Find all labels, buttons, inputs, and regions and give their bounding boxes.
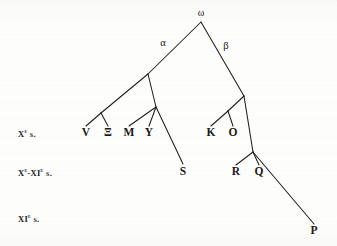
node-label-beta: β [223,41,228,52]
edge-v-xi-to-v [86,113,101,126]
edge-omega-alpha [148,22,201,74]
edge-v-xi-to-xi [101,113,108,126]
edge-omega-beta [201,22,244,96]
edge-m-y-to-s [156,107,183,164]
era-label-era-10c: Xe s. [18,127,36,139]
node-label-Y: Y [145,127,153,139]
node-label-alpha: α [160,38,166,49]
edge-beta-to-k-o-node [228,96,244,111]
node-label-P: P [310,225,317,237]
stemma-figure: Xe s.Xe-XIe s.XIe s. ωαβVΞMYKOSRQP [0,0,337,246]
era-label-era-10-11c: Xe-XIe s. [18,166,52,178]
era-label-era-11c: XIe s. [18,212,40,224]
node-label-S: S [180,166,186,178]
node-label-R: R [232,166,240,178]
node-label-omega: ω [198,8,205,18]
node-label-V: V [82,127,90,139]
edge-alpha-to-m-y-node [148,74,156,107]
node-label-O: O [229,127,238,139]
node-label-M: M [124,127,135,139]
edge-k-o-to-o [228,111,233,126]
edge-alpha-to-v-xi-node [101,74,148,113]
edge-beta-to-r-q-node [244,96,253,152]
stemma-tree-lines [0,0,337,246]
node-label-Q: Q [255,166,264,178]
edge-r-q-to-p [253,152,314,224]
node-label-K: K [207,127,216,139]
edge-k-o-to-k [211,111,228,126]
edge-r-q-to-r [236,152,253,165]
node-label-Xi: Ξ [104,127,112,139]
